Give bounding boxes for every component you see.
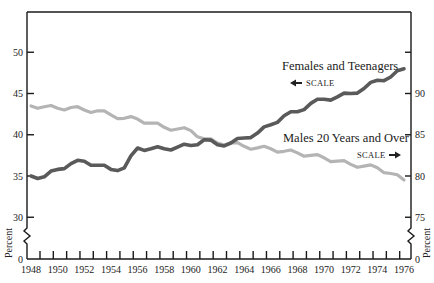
x-axis-tick-labels: 1948195019521954195619581960196219641966… (21, 264, 414, 275)
females-scale-note: SCALE (290, 78, 334, 88)
females-and-teenagers-label: Females and Teenagers (282, 59, 398, 73)
right-axis-title: Percent (421, 228, 432, 258)
males-scale-note: SCALE (357, 150, 401, 160)
males-20-years-and-over-label: Males 20 Years and Over (283, 131, 410, 145)
x-tick-label: 1954 (101, 264, 121, 275)
right-tick-label: 0 (415, 254, 420, 265)
x-tick-label: 1956 (128, 264, 148, 275)
x-tick-label: 1950 (48, 264, 68, 275)
scale-note-left: SCALE (306, 78, 334, 88)
x-tick-label: 1968 (287, 264, 307, 275)
x-tick-label: 1960 (181, 264, 201, 275)
left-tick-label: 0 (18, 254, 23, 265)
left-tick-label: 40 (13, 129, 23, 140)
left-tick-label: 35 (13, 171, 23, 182)
arrow-left-icon (290, 80, 302, 87)
x-tick-label: 1972 (341, 264, 361, 275)
x-axis-ticks (40, 251, 400, 259)
x-tick-label: 1962 (208, 264, 228, 275)
left-tick-label: 30 (13, 212, 23, 223)
arrow-right-icon (389, 152, 401, 159)
left-axis-tick-labels: 03035404550 (13, 47, 23, 265)
line-chart: 03035404550 075808590 194819501952195419… (0, 0, 434, 283)
right-tick-label: 85 (415, 129, 425, 140)
x-tick-label: 1948 (21, 264, 41, 275)
right-tick-label: 75 (415, 212, 425, 223)
right-tick-label: 80 (415, 171, 425, 182)
x-tick-label: 1970 (314, 264, 334, 275)
left-axis-ticks (27, 52, 34, 217)
x-tick-label: 1976 (394, 264, 414, 275)
x-tick-label: 1974 (367, 264, 387, 275)
left-tick-label: 50 (13, 47, 23, 58)
x-tick-label: 1952 (74, 264, 94, 275)
scale-note-right: SCALE (357, 150, 385, 160)
left-tick-label: 45 (13, 88, 23, 99)
left-axis-title: Percent (3, 228, 14, 258)
x-tick-label: 1958 (154, 264, 174, 275)
x-tick-label: 1966 (261, 264, 281, 275)
right-tick-label: 90 (415, 88, 425, 99)
x-tick-label: 1964 (234, 264, 254, 275)
